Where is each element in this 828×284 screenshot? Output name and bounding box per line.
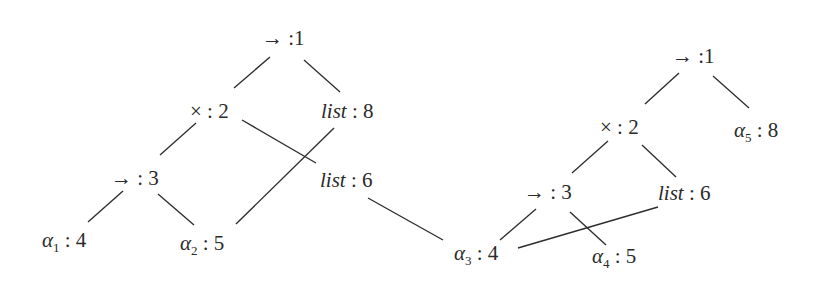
node-number: : 2 (612, 115, 639, 139)
tree-node-R8: α5 : 8 (734, 118, 778, 145)
tree-node-R4: α3 : 4 (454, 241, 499, 268)
node-number: : 4 (60, 228, 87, 252)
node-number: : 4 (472, 241, 499, 265)
edges (88, 57, 749, 248)
node-symbol: × (190, 99, 202, 123)
tree-node-L8: list : 8 (321, 99, 374, 123)
node-symbol: → (262, 26, 283, 50)
node-symbol: list (321, 99, 348, 123)
edge-R2-R3 (572, 141, 608, 173)
node-number: :1 (283, 26, 305, 50)
node-number: : 8 (752, 118, 779, 142)
type-tree-diagram: → :1× : 2list : 8→ : 3list : 6α1 : 4α2 :… (0, 0, 828, 284)
tree-node-R6: list : 6 (658, 181, 711, 205)
node-number: : 8 (347, 99, 374, 123)
node-symbol: → (672, 44, 693, 68)
node-symbol: list (320, 168, 347, 192)
edge-L1-L8 (304, 60, 340, 92)
edge-L1-L2 (234, 57, 270, 88)
tree-node-L1: → :1 (262, 26, 305, 50)
node-symbol: × (600, 115, 612, 139)
edge-R3-R4 (500, 209, 536, 240)
node-symbol: → (111, 166, 132, 190)
node-symbol: list (658, 181, 685, 205)
edge-R6-R4 (518, 207, 658, 248)
edge-R2-R6 (642, 145, 676, 177)
node-number: :1 (693, 44, 715, 68)
node-number: : 3 (132, 166, 159, 190)
tree-node-L4: α1 : 4 (42, 228, 87, 255)
node-symbol: → (524, 180, 545, 204)
node-number: : 6 (346, 168, 373, 192)
tree-node-L6: list : 6 (320, 168, 373, 192)
edge-R1-R8 (713, 76, 749, 108)
edge-R3-R5 (570, 212, 606, 245)
tree-node-R2: × : 2 (600, 115, 639, 139)
node-number: : 5 (198, 231, 225, 255)
node-number: : 6 (684, 181, 711, 205)
tree-node-L2: × : 2 (190, 99, 229, 123)
edge-L3-L4 (88, 191, 123, 222)
tree-node-L5: α2 : 5 (180, 231, 224, 258)
edge-R1-R2 (645, 73, 679, 104)
node-number: : 2 (202, 99, 229, 123)
edge-L6-R4 (368, 198, 443, 240)
node-number: : 5 (610, 244, 637, 268)
edge-L3-L5 (158, 194, 194, 225)
tree-node-L3: → : 3 (111, 166, 159, 190)
nodes: → :1× : 2list : 8→ : 3list : 6α1 : 4α2 :… (42, 26, 778, 271)
tree-node-R3: → : 3 (524, 180, 572, 204)
tree-node-R5: α4 : 5 (592, 244, 636, 271)
edge-L2-L3 (160, 123, 196, 155)
tree-node-R1: → :1 (672, 44, 715, 68)
node-number: : 3 (545, 180, 572, 204)
